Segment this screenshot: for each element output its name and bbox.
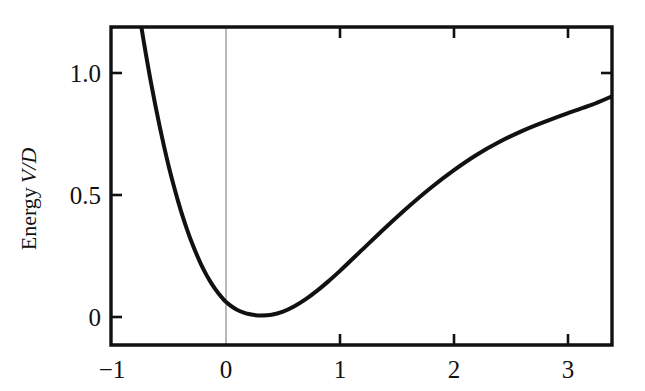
x-tick-label: 2 — [448, 357, 461, 382]
x-tick-label: 1 — [334, 357, 347, 382]
x-tick-label: 0 — [220, 357, 233, 382]
y-tick-label: 0 — [15, 305, 101, 330]
x-tick-label: −1 — [99, 357, 126, 382]
y-tick-label: 0.5 — [15, 183, 101, 208]
x-tick-label: 3 — [562, 357, 575, 382]
y-axis-label-variable: V/D — [16, 148, 41, 187]
figure-canvas: EnergyV/D 1.00.50 −10123 — [0, 0, 645, 391]
y-tick-label: 1.0 — [15, 61, 101, 86]
